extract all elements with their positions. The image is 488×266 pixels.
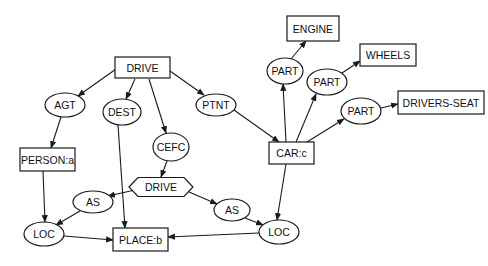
edge-part_wheels-to-wheels — [342, 61, 360, 73]
node-wheels: WHEELS — [360, 44, 416, 66]
node-part_seat: PART — [341, 98, 381, 124]
node-loc_right: LOC — [259, 220, 299, 244]
node-dest: DEST — [103, 99, 141, 125]
edge-drive_top-to-agt — [78, 69, 116, 96]
edge-as_left-to-loc_left — [56, 211, 80, 225]
edge-drive_hex-to-as_right — [189, 192, 217, 204]
node-label: LOC — [33, 228, 55, 240]
node-drivers_seat: DRIVERS-SEAT — [398, 91, 484, 114]
node-label: ENGINE — [293, 23, 333, 35]
edge-car-to-part_seat — [307, 119, 344, 142]
node-part_wheels: PART — [307, 69, 347, 95]
node-label: WHEELS — [366, 49, 410, 61]
edge-dest-to-place — [118, 125, 125, 228]
node-label: DRIVERS-SEAT — [403, 97, 480, 109]
node-label: DRIVE — [126, 62, 158, 74]
node-drive_hex: DRIVE — [129, 178, 193, 197]
edge-car-to-part_engine — [283, 84, 286, 142]
nodes-layer: DRIVEAGTDESTPTNTCEFCPERSON:aDRIVEASASLOC… — [20, 16, 484, 251]
edge-agt-to-person — [51, 117, 61, 148]
edge-part_seat-to-drivers_seat — [381, 104, 398, 108]
node-label: CAR:c — [276, 147, 306, 159]
node-as_right: AS — [214, 199, 250, 221]
node-engine: ENGINE — [287, 16, 339, 41]
node-label: LOC — [268, 226, 290, 238]
node-label: PART — [313, 76, 341, 88]
node-label: PLACE:b — [119, 234, 162, 246]
node-car: CAR:c — [269, 142, 314, 164]
edge-drive_top-to-dest — [126, 79, 135, 99]
node-as_left: AS — [73, 191, 113, 213]
edge-drive_top-to-ptnt — [170, 71, 204, 95]
node-label: AS — [225, 204, 239, 216]
node-cefc: CEFC — [153, 133, 189, 161]
edge-person-to-loc_left — [43, 171, 45, 222]
edge-as_right-to-loc_right — [245, 218, 263, 225]
node-person: PERSON:a — [20, 148, 75, 171]
node-label: CEFC — [157, 141, 186, 153]
node-agt: AGT — [45, 93, 85, 117]
edge-car-to-part_wheels — [296, 94, 316, 142]
edge-loc_right-to-place — [168, 233, 259, 237]
conceptual-graph-diagram: DRIVEAGTDESTPTNTCEFCPERSON:aDRIVEASASLOC… — [0, 0, 488, 266]
node-ptnt: PTNT — [196, 94, 236, 116]
edge-ptnt-to-car — [234, 110, 279, 142]
node-label: AGT — [54, 99, 76, 111]
node-label: DRIVE — [145, 181, 177, 193]
node-loc_left: LOC — [24, 222, 64, 246]
edge-cefc-to-drive_hex — [161, 161, 167, 177]
node-label: PART — [271, 65, 299, 77]
edge-drive_hex-to-as_left — [108, 190, 135, 196]
edge-car-to-loc_right — [277, 164, 286, 220]
node-label: PERSON:a — [21, 154, 74, 166]
node-label: AS — [86, 196, 100, 208]
diagram-canvas: DRIVEAGTDESTPTNTCEFCPERSON:aDRIVEASASLOC… — [0, 0, 488, 266]
node-label: PART — [347, 105, 375, 117]
edge-loc_left-to-place — [64, 236, 113, 240]
node-place: PLACE:b — [113, 228, 168, 251]
node-part_engine: PART — [267, 58, 303, 84]
edge-drive_top-to-cefc — [149, 79, 166, 133]
node-drive_top: DRIVE — [115, 57, 170, 78]
node-label: PTNT — [202, 99, 230, 111]
node-label: DEST — [108, 106, 137, 118]
edge-part_engine-to-engine — [291, 41, 306, 59]
